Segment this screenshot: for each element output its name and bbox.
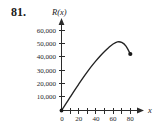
- y-tick-label-20000: 20,000: [37, 80, 57, 88]
- y-tick-label-30000: 30,000: [37, 67, 57, 75]
- plot-area: 10,000 20,000 30,000 40,000 50,000 60,00…: [0, 0, 160, 128]
- x-tick-label-80: 80: [127, 115, 135, 123]
- curve-start-point: [60, 109, 64, 113]
- x-tick-label-20: 20: [75, 115, 83, 123]
- y-tick-label-10000: 10,000: [37, 93, 57, 101]
- y-axis-arrowhead: [59, 18, 65, 25]
- x-axis-arrowhead: [137, 108, 144, 114]
- revenue-curve: [62, 42, 131, 111]
- y-tick-label-60000: 60,000: [37, 27, 57, 35]
- y-tick-label-40000: 40,000: [37, 53, 57, 61]
- curve-end-point: [128, 52, 132, 56]
- x-axis-title: x: [147, 105, 152, 115]
- y-axis-title: R(x): [51, 7, 67, 17]
- x-tick-label-60: 60: [110, 115, 118, 123]
- y-tick-label-50000: 50,000: [37, 40, 57, 48]
- figure-container: 81. 10,000 20,000 30,000 40,000 50,000 6…: [0, 0, 160, 128]
- x-tick-label-40: 40: [92, 115, 100, 123]
- x-origin-label: 0: [60, 115, 64, 123]
